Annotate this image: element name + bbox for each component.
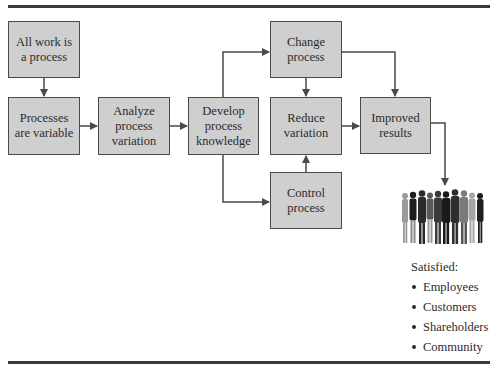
- arrow-develop-to-control: [223, 155, 269, 202]
- stakeholder-label: Shareholders: [423, 320, 488, 334]
- stakeholder-list: Employees Customers Shareholders Communi…: [411, 277, 488, 357]
- box-label: Improved results: [364, 111, 427, 141]
- box-processes-are-variable: Processes are variable: [8, 97, 80, 155]
- box-improved-results: Improved results: [360, 97, 431, 154]
- box-label: Develop process knowledge: [192, 104, 255, 149]
- group-of-people-icon: [400, 188, 490, 248]
- list-item: Community: [411, 337, 488, 357]
- box-all-work-is-a-process: All work is a process: [8, 21, 80, 78]
- box-control-process: Control process: [270, 172, 342, 229]
- box-label: Analyze process variation: [102, 104, 166, 149]
- bullet-icon: [412, 325, 416, 329]
- box-change-process: Change process: [270, 21, 342, 78]
- bullet-icon: [412, 345, 416, 349]
- stakeholder-label: Community: [423, 340, 483, 354]
- stakeholder-label: Customers: [423, 300, 476, 314]
- bottom-rule: [8, 361, 490, 364]
- box-label: All work is a process: [12, 35, 76, 65]
- list-item: Employees: [411, 277, 488, 297]
- stakeholder-label: Employees: [423, 280, 479, 294]
- bullet-icon: [412, 305, 416, 309]
- arrow-improved-to-people: [431, 123, 445, 185]
- arrow-change-to-improved: [342, 52, 395, 96]
- box-label: Processes are variable: [12, 111, 76, 141]
- satisfied-title: Satisfied:: [411, 257, 488, 277]
- list-item: Customers: [411, 297, 488, 317]
- box-reduce-variation: Reduce variation: [270, 97, 342, 155]
- box-label: Reduce variation: [274, 111, 338, 141]
- box-develop-process-knowledge: Develop process knowledge: [188, 97, 259, 155]
- bullet-icon: [412, 285, 416, 289]
- box-label: Control process: [274, 186, 338, 216]
- top-rule: [8, 5, 490, 8]
- list-item: Shareholders: [411, 317, 488, 337]
- satisfied-stakeholders: Satisfied: Employees Customers Sharehold…: [411, 257, 488, 357]
- box-label: Change process: [274, 35, 338, 65]
- arrow-develop-to-change: [223, 52, 269, 97]
- box-analyze-process-variation: Analyze process variation: [98, 97, 170, 155]
